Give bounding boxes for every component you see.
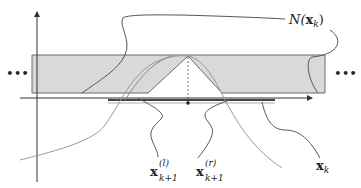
- label-x-left-sub: k+1: [159, 173, 178, 183]
- label-x-right-sub: k+1: [205, 173, 224, 183]
- neighborhood-diagram: ••• ••• N(xk) x (l) k+1 x (r) k+1 xk: [0, 0, 361, 188]
- leader-x-left: [138, 98, 162, 157]
- label-x-left: x: [150, 164, 158, 179]
- neighborhood-band: [32, 55, 325, 93]
- label-x-left-sup: (l): [159, 158, 169, 168]
- neighborhood-bracket-curve: [122, 15, 285, 55]
- label-x-k: xk: [316, 158, 329, 175]
- center-point: [186, 101, 190, 105]
- leader-x-k: [262, 102, 320, 158]
- ellipsis-right: •••: [334, 66, 357, 81]
- leader-x-right: [198, 99, 232, 158]
- label-neighborhood: N(xk): [288, 12, 324, 29]
- label-x-right: x: [196, 164, 204, 179]
- ellipsis-left: •••: [6, 66, 29, 81]
- label-x-right-sup: (r): [205, 158, 217, 168]
